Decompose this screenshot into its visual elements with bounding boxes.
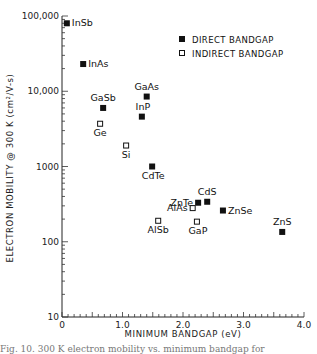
point-label: AlAs — [167, 202, 188, 213]
point-label: GaSb — [91, 92, 116, 103]
data-point-ge: Ge — [94, 121, 107, 137]
filled-square-marker-icon — [195, 200, 201, 206]
data-point-gasb: GaSb — [91, 92, 116, 111]
point-label: Si — [122, 149, 131, 160]
point-label: InP — [136, 101, 151, 112]
point-label: CdTe — [142, 170, 165, 181]
filled-square-marker-icon — [64, 20, 70, 26]
filled-square-marker-icon — [220, 208, 226, 214]
point-label: GaP — [188, 225, 207, 236]
filled-square-marker-icon — [144, 94, 150, 100]
legend: DIRECT BANDGAP INDIRECT BANDGAP — [179, 35, 284, 59]
y-tick-label: 1000 — [36, 162, 59, 172]
point-label: InAs — [88, 58, 108, 69]
data-point-gaas: GaAs — [134, 81, 159, 100]
point-label: GaAs — [134, 81, 159, 92]
filled-square-marker-icon — [204, 199, 210, 205]
data-point-inp: InP — [136, 101, 151, 120]
data-point-gap: GaP — [188, 219, 207, 236]
open-square-marker-icon — [194, 219, 199, 224]
filled-square-marker-icon — [100, 105, 106, 111]
x-axis-title: MINIMUM BANDGAP (eV) — [125, 329, 242, 339]
x-tick-label: 4.0 — [297, 320, 312, 330]
point-label: AlSb — [148, 224, 169, 235]
open-square-marker-icon — [190, 206, 195, 211]
x-tick-label: 0 — [59, 320, 65, 330]
data-point-alsb: AlSb — [148, 218, 169, 235]
y-tick-label: 100,000 — [22, 11, 59, 21]
open-square-marker-icon — [98, 121, 103, 126]
filled-square-marker-icon — [279, 229, 285, 235]
legend-indirect-label: INDIRECT BANDGAP — [192, 49, 284, 59]
indirect-bandgap-marker-icon — [180, 51, 185, 56]
data-point-znse: ZnSe — [220, 205, 253, 216]
open-square-marker-icon — [156, 218, 161, 223]
point-label: Ge — [94, 127, 107, 138]
direct-bandgap-marker-icon — [179, 36, 185, 42]
data-point-cdte: CdTe — [142, 164, 165, 181]
y-tick-label: 10 — [48, 312, 60, 322]
data-point-si: Si — [122, 143, 131, 160]
filled-square-marker-icon — [80, 61, 86, 67]
y-axis-title: ELECTRON MOBILITY @ 300 K (cm²/V-s) — [5, 73, 15, 262]
data-point-zns: ZnS — [273, 216, 292, 235]
point-label: ZnSe — [228, 205, 253, 216]
point-label: InSb — [72, 17, 93, 28]
filled-square-marker-icon — [139, 114, 145, 120]
legend-direct-label: DIRECT BANDGAP — [192, 35, 274, 45]
data-point-insb: InSb — [64, 17, 93, 28]
data-point-inas: InAs — [80, 58, 108, 69]
figure-caption: Fig. 10. 300 K electron mobility vs. min… — [0, 344, 317, 354]
tick-labels: 01.02.03.04.010100100010,000100,000 — [22, 11, 312, 330]
y-tick-label: 100 — [42, 237, 59, 247]
point-label: ZnS — [273, 216, 292, 227]
open-square-marker-icon — [124, 143, 129, 148]
point-label: CdS — [198, 186, 217, 197]
y-tick-label: 10,000 — [28, 86, 60, 96]
